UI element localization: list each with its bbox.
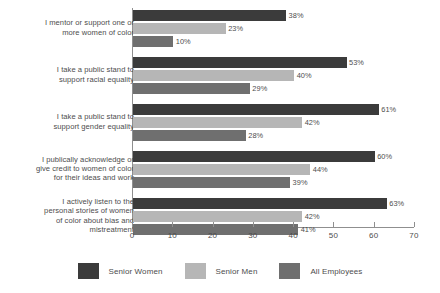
category-label-line: I mentor or support one or: [8, 18, 134, 27]
category-label: I actively listen to thepersonal stories…: [8, 197, 134, 235]
x-axis-tick: [253, 222, 254, 227]
bar-value-label: 61%: [381, 104, 396, 115]
x-axis-tick-label: 0: [130, 231, 135, 240]
bar-senior-men: [133, 23, 226, 34]
bar-value-label: 39%: [293, 177, 308, 188]
bar-value-label: 10%: [176, 36, 191, 47]
legend-label: Senior Men: [216, 267, 258, 276]
x-axis-tick: [132, 222, 133, 227]
bar-value-label: 28%: [248, 130, 263, 141]
category-label-line: for their ideas and work: [8, 173, 134, 182]
legend-label: All Employees: [310, 267, 362, 276]
x-axis-tick-label: 20: [208, 231, 217, 240]
bar-value-label: 53%: [349, 57, 364, 68]
bar-all-employees: [133, 177, 290, 188]
legend-label: Senior Women: [109, 267, 163, 276]
x-axis-tick-label: 40: [288, 231, 297, 240]
x-axis-tick-label: 70: [409, 231, 418, 240]
legend-item[interactable]: Senior Men: [185, 263, 258, 279]
x-axis-tick: [333, 222, 334, 227]
bar-value-label: 29%: [252, 83, 267, 94]
bar-senior-women: [133, 57, 347, 68]
bar-value-label: 40%: [297, 70, 312, 81]
category-label: I take a public stand tosupport gender e…: [8, 112, 134, 131]
category-label-line: I take a public stand to: [8, 112, 134, 121]
category-label: I mentor or support one ormore women of …: [8, 18, 134, 37]
bar-senior-men: [133, 164, 310, 175]
category-label-line: I actively listen to the: [8, 197, 134, 206]
bar-value-label: 38%: [289, 10, 304, 21]
bar-value-label: 41%: [301, 224, 316, 235]
legend-swatch-icon: [279, 263, 300, 279]
category-label-line: mistreatment: [8, 225, 134, 234]
bar-all-employees: [133, 36, 173, 47]
bar-value-label: 60%: [377, 151, 392, 162]
x-axis-tick: [172, 222, 173, 227]
x-axis-tick-label: 60: [369, 231, 378, 240]
x-axis-tick: [414, 222, 415, 227]
bar-all-employees: [133, 130, 246, 141]
plot-area: I mentor or support one ormore women of …: [0, 0, 440, 240]
bar-senior-men: [133, 70, 294, 81]
bar-senior-men: [133, 211, 302, 222]
x-axis-tick-label: 10: [168, 231, 177, 240]
bar-senior-men: [133, 117, 302, 128]
bar-senior-women: [133, 104, 379, 115]
bar-value-label: 44%: [313, 164, 328, 175]
x-axis-tick: [293, 222, 294, 227]
horizontal-bar-chart: I mentor or support one ormore women of …: [0, 0, 440, 293]
bar-senior-women: [133, 10, 286, 21]
bar-value-label: 23%: [228, 23, 243, 34]
category-label-line: I take a public stand to: [8, 65, 134, 74]
x-axis-tick: [213, 222, 214, 227]
category-label-line: of color about bias and: [8, 216, 134, 225]
bar-value-label: 63%: [389, 198, 404, 209]
category-label: I take a public stand tosupport racial e…: [8, 65, 134, 84]
x-axis-tick-label: 30: [248, 231, 257, 240]
category-label: I publically acknowledge orgive credit t…: [8, 155, 134, 183]
category-label-line: I publically acknowledge or: [8, 155, 134, 164]
bar-value-label: 42%: [305, 211, 320, 222]
x-axis-tick: [374, 222, 375, 227]
legend-swatch-icon: [185, 263, 206, 279]
legend-swatch-icon: [78, 263, 99, 279]
category-label-line: give credit to women of color: [8, 164, 134, 173]
category-label-line: more women of color: [8, 28, 134, 37]
x-axis-tick-label: 50: [329, 231, 338, 240]
bar-value-label: 42%: [305, 117, 320, 128]
chart-legend: Senior WomenSenior MenAll Employees: [0, 259, 440, 283]
bar-senior-women: [133, 198, 387, 209]
legend-item[interactable]: Senior Women: [78, 263, 163, 279]
legend-item[interactable]: All Employees: [279, 263, 362, 279]
bar-all-employees: [133, 83, 250, 94]
bar-senior-women: [133, 151, 375, 162]
category-label-line: support gender equality: [8, 122, 134, 131]
category-label-line: support racial equality: [8, 75, 134, 84]
category-label-line: personal stories of women: [8, 206, 134, 215]
